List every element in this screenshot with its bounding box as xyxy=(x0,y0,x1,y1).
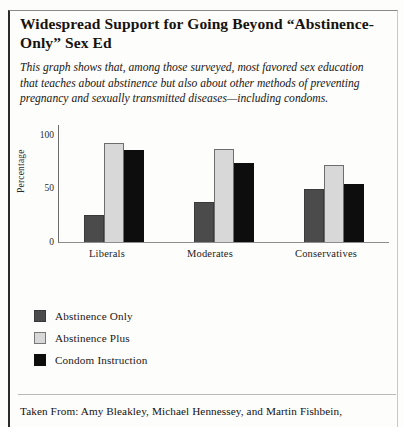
bar-moderates-condom-instruction xyxy=(234,163,254,242)
legend-swatch-icon xyxy=(34,310,46,322)
plot-area: 501000 xyxy=(58,125,389,243)
y-axis-tick-50: 50 xyxy=(45,183,55,193)
legend-label: Abstinence Plus xyxy=(55,332,130,344)
x-axis-label-moderates: Moderates xyxy=(187,248,233,259)
bar-conservatives-abstinence-only xyxy=(304,189,324,241)
y-axis-tick-0: 0 xyxy=(49,237,54,247)
y-axis-tick-100: 100 xyxy=(40,130,54,140)
legend-item-condom-instruction: Condom Instruction xyxy=(34,349,394,371)
bar-moderates-abstinence-plus xyxy=(214,149,234,242)
bar-chart: Percentage 501000 LiberalsModeratesConse… xyxy=(20,119,394,299)
bar-group-liberals xyxy=(84,125,144,242)
bar-liberals-abstinence-only xyxy=(84,215,104,242)
footer-divider xyxy=(18,394,396,395)
bar-group-moderates xyxy=(194,125,254,242)
bar-moderates-abstinence-only xyxy=(194,202,214,241)
x-axis-label-conservatives: Conservatives xyxy=(295,248,357,259)
figure-caption: This graph shows that, among those surve… xyxy=(20,60,370,107)
bar-group-conservatives xyxy=(304,125,364,242)
figure-body: Widespread Support for Going Beyond “Abs… xyxy=(20,14,394,427)
bar-conservatives-abstinence-plus xyxy=(324,165,344,242)
page-title: Widespread Support for Going Beyond “Abs… xyxy=(20,14,394,52)
bar-liberals-condom-instruction xyxy=(124,150,144,241)
bar-groups xyxy=(59,125,389,242)
x-axis-label-liberals: Liberals xyxy=(89,248,125,259)
bar-conservatives-condom-instruction xyxy=(344,184,364,241)
chart-legend: Abstinence OnlyAbstinence PlusCondom Ins… xyxy=(34,305,394,371)
source-attribution: Taken From: Amy Bleakley, Michael Hennes… xyxy=(20,404,396,418)
legend-label: Abstinence Only xyxy=(55,310,133,322)
legend-swatch-icon xyxy=(34,354,46,366)
figure-page: Widespread Support for Going Beyond “Abs… xyxy=(0,0,404,427)
y-axis-label: Percentage xyxy=(16,149,26,193)
legend-swatch-icon xyxy=(34,332,46,344)
legend-item-abstinence-only: Abstinence Only xyxy=(34,305,394,327)
x-axis-labels: LiberalsModeratesConservatives xyxy=(58,248,388,259)
bar-liberals-abstinence-plus xyxy=(104,143,124,242)
legend-label: Condom Instruction xyxy=(55,354,148,366)
legend-item-abstinence-plus: Abstinence Plus xyxy=(34,327,394,349)
